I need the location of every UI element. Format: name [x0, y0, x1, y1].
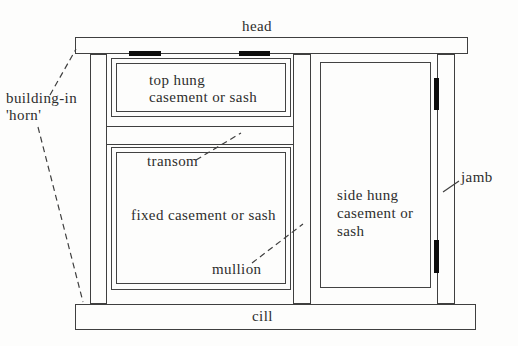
head-label: head	[242, 18, 272, 35]
horn-upper-leader-line	[50, 49, 76, 95]
horn-label-line2: 'horn'	[6, 107, 77, 124]
top-hung-label-line2: casement or sash	[149, 89, 257, 106]
fixed-casement-label: fixed casement or sash	[131, 207, 276, 224]
horn-label-line1: building-in	[6, 90, 77, 107]
horn-lower-leader-line	[38, 127, 83, 302]
building-in-horn-label: building-in 'horn'	[6, 90, 77, 124]
window-terminology-diagram: head building-in 'horn' top hung casemen…	[0, 0, 518, 346]
top-hung-casement-label: top hung casement or sash	[149, 72, 257, 106]
mullion-label: mullion	[212, 261, 261, 278]
cill-rail-bar	[75, 304, 476, 330]
side-hung-sash-outline	[320, 62, 431, 288]
side-hung-label-line1: side hung	[337, 186, 413, 204]
side-hung-label-line2: casement or	[337, 204, 413, 222]
transom-bar	[106, 126, 294, 145]
top-hinge-mark-icon	[129, 51, 161, 56]
mullion-bar	[293, 54, 311, 304]
side-hinge-mark-icon	[434, 240, 439, 273]
top-hinge-mark-icon	[239, 51, 270, 56]
jamb-label: jamb	[461, 169, 493, 186]
side-hinge-mark-icon	[434, 78, 439, 110]
side-hung-casement-label: side hung casement or sash	[337, 186, 413, 240]
side-hung-label-line3: sash	[337, 222, 413, 240]
transom-label: transom	[147, 153, 198, 170]
top-hung-label-line1: top hung	[149, 72, 257, 89]
left-jamb-bar	[90, 54, 107, 304]
cill-label: cill	[252, 308, 273, 325]
right-jamb-bar	[437, 54, 455, 304]
